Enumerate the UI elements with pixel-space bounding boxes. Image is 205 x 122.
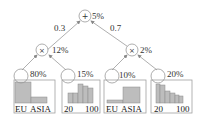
leaf-4-prob: 20% [167,69,184,79]
leaf-3-prob: 10% [119,70,136,80]
edge-left-leaf1 [22,55,37,70]
right-product-prob: 2% [140,45,152,55]
leaf-2-axis-left: 20 [64,104,73,114]
leaf-4-axis-left: 20 [154,104,163,114]
edge-right-leaf3 [112,55,127,70]
leaf-2-axis-right: 100 [85,104,99,114]
leaf-1-axis-left: EU [15,104,27,114]
leaf-1-prob: 80% [30,69,47,79]
leaf-2-prob: 15% [77,69,94,79]
svg-text:×: × [39,47,45,55]
leaf-3-axis-left: EU [106,104,118,114]
edge-left-leaf2 [49,55,66,70]
edge-right-leaf4 [138,55,157,70]
svg-text:+: + [82,12,89,21]
right-edge-weight: 0.7 [110,23,121,33]
svg-text:×: × [129,47,135,55]
leaf-3-axis-right: ASIA [121,104,142,114]
leaf-4-axis-right: 100 [176,104,190,114]
left-product-prob: 12% [52,45,69,55]
left-edge-weight: 0.3 [54,23,65,33]
root-prob: 5% [92,11,104,21]
leaf-1-axis-right: ASIA [30,104,51,114]
